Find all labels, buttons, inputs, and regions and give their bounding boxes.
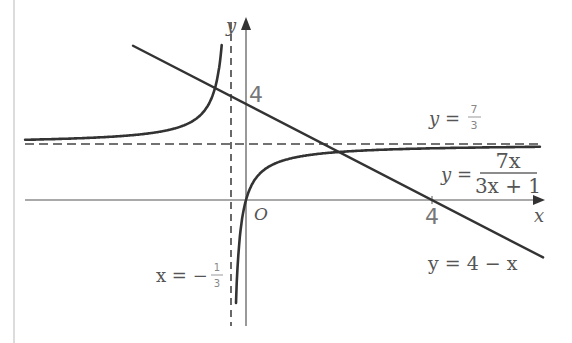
svg-text:x = −: x = − bbox=[156, 265, 208, 286]
svg-text:7: 7 bbox=[471, 103, 478, 116]
svg-text:3x + 1: 3x + 1 bbox=[475, 174, 541, 198]
svg-text:y =: y = bbox=[428, 108, 460, 129]
svg-text:y =: y = bbox=[440, 164, 472, 185]
x-tick-label-4: 4 bbox=[425, 204, 439, 229]
y-axis-label: y bbox=[225, 15, 237, 36]
svg-text:7x: 7x bbox=[495, 149, 520, 173]
svg-text:1: 1 bbox=[214, 262, 220, 273]
line-y-4-minus-x bbox=[133, 46, 543, 258]
label-vertical-asymptote: x = − 1 3 bbox=[156, 262, 223, 289]
svg-text:3: 3 bbox=[214, 278, 220, 289]
label-linear-function: y = 4 − x bbox=[427, 252, 518, 274]
rational-curve-left-branch bbox=[25, 45, 222, 140]
function-graph: y x O 4 4 y = 7 3 y = 7x 3x + 1 y = 4 − … bbox=[0, 0, 572, 343]
y-tick-label-4: 4 bbox=[249, 82, 263, 107]
label-horizontal-asymptote: y = 7 3 bbox=[428, 103, 481, 132]
y-axis-arrow-icon bbox=[241, 17, 251, 30]
rational-curve-right-branch bbox=[236, 147, 540, 303]
svg-text:3: 3 bbox=[471, 119, 478, 132]
label-rational-function: y = 7x 3x + 1 bbox=[440, 149, 541, 198]
x-axis-label: x bbox=[534, 205, 544, 226]
origin-label: O bbox=[254, 204, 268, 224]
